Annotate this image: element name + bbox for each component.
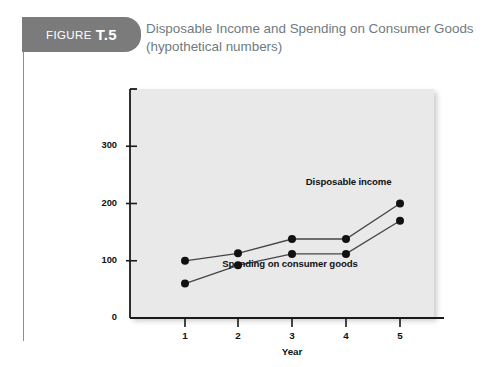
data-point [234,249,242,257]
y-tick-label: 300 [89,140,117,150]
x-tick-label: 5 [388,330,412,341]
figure-container: FIGURE T.5 Disposable Income and Spendin… [0,0,490,367]
x-axis-label: Year [262,346,322,357]
chart-series-svg [130,89,434,318]
figure-title-line-1: Disposable Income and Spending on Consum… [146,20,482,38]
x-tick-label: 1 [173,330,197,341]
chart-plot-area [130,89,434,318]
figure-title: Disposable Income and Spending on Consum… [146,20,482,55]
data-point [181,257,189,265]
series-label-0: Disposable income [306,176,392,187]
y-tick-label: 0 [89,312,117,322]
data-point [396,217,404,225]
data-point [342,235,350,243]
figure-badge-word: FIGURE [46,29,92,41]
figure-badge: FIGURE T.5 [22,17,141,52]
x-tick-label: 4 [334,330,358,341]
data-point [288,235,296,243]
data-point [181,280,189,288]
series-label-1: Spending on consumer goods [222,258,357,269]
figure-title-line-2: (hypothetical numbers) [146,38,482,56]
figure-badge-number: T.5 [96,26,117,43]
x-tick-label: 3 [280,330,304,341]
data-point [396,200,404,208]
y-tick-label: 100 [89,255,117,265]
x-tick-label: 2 [226,330,250,341]
y-tick-label: 200 [89,198,117,208]
left-vertical-rule [23,52,24,341]
